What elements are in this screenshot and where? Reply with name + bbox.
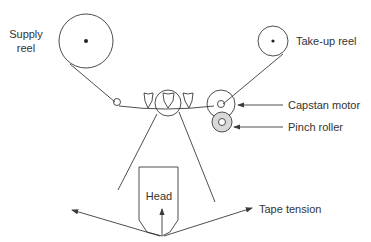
supply-reel-label-line2: reel (17, 42, 35, 54)
supply-reel-label-line1: Supply (9, 28, 43, 40)
pinch-roller-label: Pinch roller (288, 121, 343, 133)
zoom-line-left (118, 114, 157, 190)
head-label: Head (146, 190, 172, 202)
takeup-reel-label: Take-up reel (296, 35, 357, 47)
pinch-roller (212, 112, 232, 132)
supply-reel (59, 14, 113, 68)
takeup-reel (258, 26, 288, 56)
head-shape-small (163, 93, 174, 108)
tension-arrow-left (72, 210, 160, 236)
left-guide (144, 93, 153, 108)
capstan-motor-label: Capstan motor (288, 99, 360, 111)
zoom-line-right (179, 112, 215, 202)
tape-transport-diagram: Supply reel Take-up reel Capstan motor P… (0, 0, 371, 242)
right-guide (183, 93, 193, 108)
tape-tension-label: Tape tension (259, 203, 321, 215)
